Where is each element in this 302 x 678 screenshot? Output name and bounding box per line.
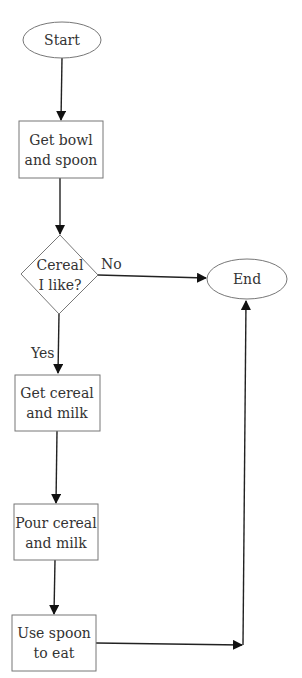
- get-bowl-box: [19, 121, 103, 178]
- get-cereal-line1: Get cereal: [20, 385, 94, 401]
- decision-line1: Cereal: [37, 257, 84, 273]
- get-bowl-line1: Get bowl: [29, 132, 93, 148]
- node-get-cereal: Get cereal and milk: [15, 375, 100, 431]
- edge-label-yes: Yes: [30, 345, 55, 361]
- edge-merge-to-end: [243, 301, 246, 645]
- use-spoon-line2: to eat: [34, 645, 75, 661]
- get-cereal-line2: and milk: [26, 405, 88, 421]
- end-label: End: [233, 271, 261, 287]
- pour-box: [14, 504, 98, 560]
- node-decision: Cereal I like?: [21, 235, 98, 314]
- get-cereal-box: [15, 375, 100, 431]
- flowchart: No Yes Start Get bowl and spoon Cereal I…: [0, 0, 302, 678]
- pour-line2: and milk: [25, 535, 87, 551]
- edge-pour-to-usespoon: [54, 560, 55, 614]
- pour-line1: Pour cereal: [15, 515, 97, 531]
- node-use-spoon: Use spoon to eat: [12, 615, 96, 671]
- node-pour: Pour cereal and milk: [14, 504, 98, 560]
- edge-getcereal-to-pour: [56, 431, 57, 503]
- edge-label-no: No: [101, 256, 122, 272]
- get-bowl-line2: and spoon: [25, 152, 98, 168]
- edge-start-to-getbowl: [61, 58, 62, 120]
- use-spoon-line1: Use spoon: [17, 625, 91, 641]
- node-start: Start: [23, 22, 101, 58]
- node-get-bowl: Get bowl and spoon: [19, 121, 103, 178]
- decision-diamond: [21, 235, 98, 314]
- decision-line2: I like?: [38, 277, 81, 293]
- edge-decision-to-getcereal-yes: [58, 314, 59, 373]
- start-label: Start: [44, 32, 80, 48]
- use-spoon-box: [12, 615, 96, 671]
- edge-decision-to-end-no: [98, 275, 206, 278]
- node-end: End: [207, 259, 287, 299]
- edge-usespoon-to-merge: [96, 643, 242, 645]
